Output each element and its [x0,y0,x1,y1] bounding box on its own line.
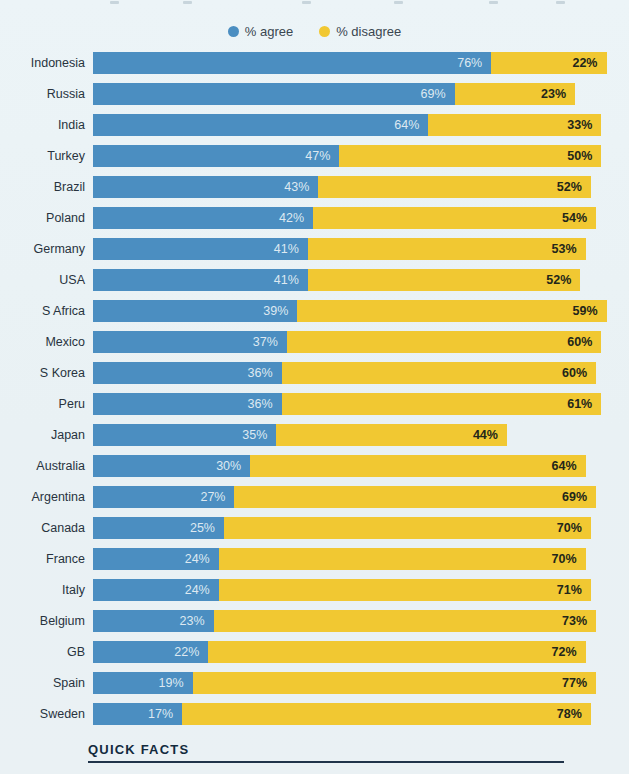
country-label: Mexico [0,335,93,349]
disagree-value-label: 52% [557,180,591,194]
disagree-value-label: 69% [562,490,596,504]
disagree-value-label: 50% [567,149,601,163]
quick-facts-footer: QUICK FACTS [88,742,564,763]
agree-value-label: 23% [179,614,213,628]
disagree-bar-segment: 64% [250,455,585,477]
agree-bar-segment: 24% [93,548,219,570]
country-label: Sweden [0,707,93,721]
disagree-bar-segment: 78% [182,703,591,725]
agree-value-label: 36% [248,397,282,411]
disagree-bar-segment: 23% [455,83,576,105]
disagree-dot-icon [319,26,330,37]
disagree-bar-segment: 50% [339,145,601,167]
agree-value-label: 39% [263,304,297,318]
bar-track: 43%52% [93,176,617,198]
agree-value-label: 22% [174,645,208,659]
disagree-bar-segment: 70% [224,517,591,539]
disagree-bar-segment: 33% [428,114,601,136]
agree-value-label: 27% [200,490,234,504]
legend-label-disagree: % disagree [336,24,401,39]
agree-bar-segment: 35% [93,424,276,446]
agree-value-label: 35% [242,428,276,442]
legend-item-agree: % agree [228,24,293,39]
disagree-value-label: 22% [572,56,606,70]
disagree-value-label: 70% [557,521,591,535]
country-label: Canada [0,521,93,535]
chart-row: India64%33% [0,114,629,136]
bar-track: 36%61% [93,393,617,415]
bar-track: 42%54% [93,207,617,229]
disagree-value-label: 59% [572,304,606,318]
chart-row: Australia30%64% [0,455,629,477]
chart-row: Brazil43%52% [0,176,629,198]
bar-track: 23%73% [93,610,617,632]
disagree-bar-segment: 71% [219,579,591,601]
disagree-value-label: 53% [552,242,586,256]
chart-row: Argentina27%69% [0,486,629,508]
disagree-value-label: 64% [552,459,586,473]
bar-track: 39%59% [93,300,617,322]
agree-bar-segment: 42% [93,207,313,229]
agree-value-label: 36% [248,366,282,380]
country-label: USA [0,273,93,287]
bar-track: 27%69% [93,486,617,508]
chart-rows: Indonesia76%22%Russia69%23%India64%33%Tu… [0,52,629,725]
agree-bar-segment: 41% [93,238,308,260]
chart-row: Germany41%53% [0,238,629,260]
stacked-bar-chart: Indonesia76%22%Russia69%23%India64%33%Tu… [0,52,629,725]
cropped-text-remnant [302,1,311,4]
disagree-value-label: 44% [473,428,507,442]
disagree-value-label: 77% [562,676,596,690]
disagree-bar-segment: 73% [214,610,597,632]
agree-bar-segment: 17% [93,703,182,725]
country-label: Germany [0,242,93,256]
chart-row: Russia69%23% [0,83,629,105]
chart-row: France24%70% [0,548,629,570]
agree-bar-segment: 24% [93,579,219,601]
agree-value-label: 76% [457,56,491,70]
disagree-bar-segment: 52% [308,269,580,291]
chart-legend: % agree % disagree [0,0,629,39]
country-label: Argentina [0,490,93,504]
country-label: India [0,118,93,132]
infographic-page: % agree % disagree Indonesia76%22%Russia… [0,0,629,774]
agree-value-label: 69% [421,87,455,101]
agree-value-label: 43% [284,180,318,194]
disagree-bar-segment: 54% [313,207,596,229]
agree-bar-segment: 19% [93,672,193,694]
chart-row: GB22%72% [0,641,629,663]
cropped-text-remnant [394,1,403,4]
disagree-bar-segment: 60% [287,331,601,353]
cropped-text-remnant [489,1,498,4]
chart-row: Sweden17%78% [0,703,629,725]
footer-divider [88,761,564,763]
country-label: France [0,552,93,566]
bar-track: 35%44% [93,424,617,446]
country-label: Indonesia [0,56,93,70]
chart-row: Belgium23%73% [0,610,629,632]
agree-value-label: 30% [216,459,250,473]
cropped-text-remnant [110,1,119,4]
bar-track: 41%52% [93,269,617,291]
bar-track: 36%60% [93,362,617,384]
agree-value-label: 19% [159,676,193,690]
disagree-value-label: 78% [557,707,591,721]
country-label: Italy [0,583,93,597]
country-label: S Africa [0,304,93,318]
legend-item-disagree: % disagree [319,24,401,39]
chart-row: Turkey47%50% [0,145,629,167]
cropped-text-remnant [183,1,192,4]
bar-track: 37%60% [93,331,617,353]
country-label: Peru [0,397,93,411]
disagree-value-label: 33% [567,118,601,132]
agree-value-label: 41% [274,242,308,256]
disagree-bar-segment: 59% [297,300,606,322]
bar-track: 47%50% [93,145,617,167]
agree-bar-segment: 41% [93,269,308,291]
disagree-value-label: 52% [546,273,580,287]
country-label: Australia [0,459,93,473]
disagree-bar-segment: 69% [234,486,596,508]
disagree-value-label: 54% [562,211,596,225]
country-label: Brazil [0,180,93,194]
cropped-text-remnant [556,1,565,4]
